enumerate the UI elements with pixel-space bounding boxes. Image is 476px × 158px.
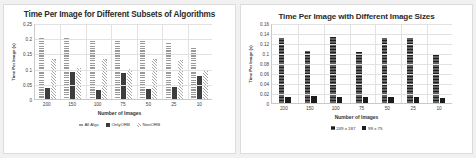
y-axis-ticks-left: 00.050.10.150.20.25 [14,24,32,100]
plot-grid-left [34,24,212,100]
chart-panel-image-sizes: Time Per Image with Different Image Size… [240,4,473,154]
bar-nonorb [102,59,107,99]
bar-group [111,24,136,99]
grid-line-vertical [427,24,428,103]
grid-line [272,54,452,55]
legend-label: All Algs [84,122,98,127]
grid-line [272,94,452,95]
chart-title-left: Time Per Image for Different Subsets of … [4,5,235,20]
y-tick-label: 0.02 [260,91,269,96]
grid-line [272,34,452,35]
grid-line-vertical [375,24,376,103]
bar-onlyorb [146,89,151,99]
legend-label: 249 x 187 [336,126,355,131]
x-tick-label: 100 [323,106,349,111]
bar-nonorb [152,59,157,99]
grid-line [272,84,452,85]
bar-99-x-75 [311,96,317,103]
legend-item: 249 x 187 [331,126,356,131]
legend-label: 99 x 75 [368,126,382,131]
legend-right: 249 x 18799 x 75 [241,126,472,131]
y-tick-label: 0.16 [260,21,269,26]
grid-line-vertical [162,24,163,99]
grid-line [35,24,212,25]
grid-line [272,74,452,75]
x-tick-label: 75 [349,106,375,111]
bar-99-x-75 [388,97,394,103]
bar-group [187,24,212,99]
y-tick-label: 0 [266,101,269,106]
legend-swatch-icon [331,126,335,130]
grid-line [35,54,212,55]
bar-onlyorb [45,88,50,99]
chart-title-right: Time Per Image with Different Image Size… [241,5,472,22]
legend-label: NonORB [143,122,161,127]
grid-line-vertical [60,24,61,99]
screenshot-root: Time Per Image for Different Subsets of … [0,0,476,158]
grid-line-vertical [298,24,299,103]
legend-item: NonORB [137,122,160,127]
x-tick-label: 25 [400,106,426,111]
grid-line [35,85,212,86]
bar-group [136,24,161,99]
x-axis-ticks-right: 20015010075502510 [271,106,452,111]
bar-nonorb [51,59,56,99]
y-tick-label: 0.05 [23,82,32,87]
x-tick-label: 75 [110,102,135,107]
chart-panel-algorithm-subsets: Time Per Image for Different Subsets of … [3,4,236,154]
grid-line [272,44,452,45]
grid-line-vertical [324,24,325,103]
bar-249-x-187 [433,55,439,103]
y-tick-label: 0.15 [23,52,32,57]
y-axis-ticks-right: 00.020.040.060.080.10.120.140.16 [251,24,269,104]
y-tick-label: 0 [29,98,32,103]
y-tick-label: 0.12 [260,41,269,46]
grid-line [35,39,212,40]
x-axis-ticks-left: 20015010075502510 [34,102,212,107]
legend-item: OnlyORB [106,122,130,127]
bar-all-algs [64,37,69,99]
x-tick-label: 150 [59,102,84,107]
bar-99-x-75 [414,97,420,103]
grid-line [272,24,452,25]
bar-groups-left [35,24,212,99]
x-tick-label: 50 [374,106,400,111]
legend-label: OnlyORB [111,122,130,127]
bar-onlyorb [197,76,202,99]
grid-line-vertical [86,24,87,99]
x-axis-title-right: Number of Images [241,114,472,120]
grid-line-vertical [137,24,138,99]
bar-249-x-187 [305,51,311,103]
y-tick-label: 0.1 [26,67,32,72]
bar-onlyorb [172,87,177,99]
legend-swatch-icon [362,126,366,130]
legend-swatch-icon [137,123,141,127]
y-tick-label: 0.04 [260,81,269,86]
y-tick-label: 0.08 [260,61,269,66]
x-tick-label: 150 [297,106,323,111]
x-tick-label: 100 [85,102,110,107]
bar-group [161,24,186,99]
bar-nonorb [178,60,183,99]
legend-item: 99 x 75 [362,126,382,131]
grid-line-vertical [111,24,112,99]
legend-left: All AlgsOnlyORBNonORB [4,122,235,127]
x-tick-label: 200 [34,102,59,107]
grid-line-vertical [401,24,402,103]
y-tick-label: 0.2 [26,37,32,42]
y-tick-label: 0.06 [260,71,269,76]
bar-99-x-75 [363,97,369,103]
legend-item: All Algs [79,122,99,127]
x-axis-title-left: Number of Images [4,110,235,116]
bar-249-x-187 [356,52,362,103]
grid-line-vertical [188,24,189,99]
x-tick-label: 10 [187,102,212,107]
bar-nonorb [76,68,81,99]
y-tick-label: 0.25 [23,22,32,27]
legend-swatch-icon [106,123,110,127]
bar-group [60,24,85,99]
y-tick-label: 0.1 [263,51,269,56]
legend-swatch-icon [79,123,83,127]
bar-99-x-75 [440,98,446,103]
grid-line [272,64,452,65]
